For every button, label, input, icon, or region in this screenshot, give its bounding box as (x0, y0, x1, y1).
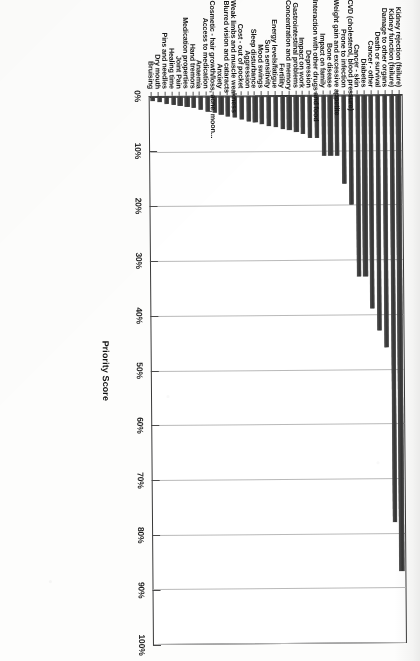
bar (259, 96, 263, 124)
bar (239, 96, 243, 119)
bar (293, 96, 298, 132)
bar (368, 95, 374, 308)
category-label: Bruising (146, 1, 156, 89)
category-tick (302, 91, 303, 95)
bar (362, 95, 368, 276)
category-tick (384, 90, 385, 94)
value-axis-title-label: Priority Score (100, 341, 110, 402)
category-tick (274, 91, 275, 95)
category-tick (363, 90, 364, 94)
value-axis-tick-label: 40% (134, 307, 144, 323)
bar (375, 95, 381, 330)
tick-mark (152, 535, 160, 536)
value-axis-tick-label: 100% (136, 635, 146, 656)
bar (164, 97, 168, 104)
category-tick (185, 92, 186, 96)
value-axis-tick-label: 60% (135, 417, 145, 433)
category-tick (199, 92, 200, 96)
bar (287, 96, 291, 130)
value-axis-tick-label: 30% (133, 252, 143, 268)
category-tick (164, 92, 165, 96)
bar (300, 96, 305, 134)
bar (348, 95, 353, 204)
chart-root: Priority Score 0%10%20%30%40%50%60%70%80… (0, 0, 420, 661)
category-tick (219, 91, 220, 95)
category-axis: Kidney rejection (failure)Kidney functio… (147, 0, 402, 96)
tick-mark (149, 151, 157, 152)
category-tick (398, 90, 399, 94)
bar (355, 95, 361, 276)
bar (280, 96, 284, 129)
value-axis: Priority Score 0%10%20%30%40%50%60%70%80… (0, 96, 152, 646)
category-tick (391, 90, 392, 94)
plot-wrapper (148, 94, 406, 645)
category-tick (357, 90, 358, 94)
bar (219, 96, 223, 114)
category-tick (151, 92, 152, 96)
bar (171, 97, 175, 105)
bar (253, 96, 257, 122)
category-tick (288, 91, 289, 95)
bar (341, 95, 346, 183)
category-tick (295, 91, 296, 95)
tick-mark (151, 480, 159, 481)
category-tick (192, 92, 193, 96)
bar (184, 97, 188, 107)
bar (246, 96, 250, 121)
bar (191, 97, 195, 109)
value-axis-tick-label: 20% (133, 198, 143, 214)
tick-mark (150, 316, 158, 317)
rotated-chart-stage: Priority Score 0%10%20%30%40%50%60%70%80… (0, 0, 420, 661)
bar (328, 96, 333, 156)
value-axis-title: Priority Score (96, 96, 118, 645)
bar (321, 96, 326, 156)
value-axis-tick-label: 90% (136, 582, 146, 598)
category-tick (281, 91, 282, 95)
bar-series (149, 95, 405, 644)
category-tick (329, 91, 330, 95)
tick-mark (150, 370, 158, 371)
value-axis-tick-label: 70% (135, 472, 145, 488)
bar (178, 97, 182, 106)
category-slot: Bruising (147, 0, 155, 96)
bar (266, 96, 270, 126)
value-axis-tick-label: 80% (136, 527, 146, 543)
category-tick (370, 90, 371, 94)
bar (273, 96, 277, 127)
category-tick (322, 91, 323, 95)
value-axis-tick-label: 10% (133, 143, 143, 159)
category-tick (171, 92, 172, 96)
bar (150, 97, 154, 101)
category-tick (254, 91, 255, 95)
category-tick (178, 92, 179, 96)
category-tick (267, 91, 268, 95)
plot-area (148, 94, 406, 645)
bar (157, 97, 161, 103)
category-tick (206, 92, 207, 96)
tick-mark (149, 206, 157, 207)
category-tick (240, 91, 241, 95)
bar (198, 97, 202, 110)
category-tick (308, 91, 309, 95)
category-tick (157, 92, 158, 96)
value-axis-tick-label: 50% (134, 362, 144, 378)
tick-mark (152, 645, 160, 646)
tick-mark (152, 590, 160, 591)
category-tick (377, 90, 378, 94)
bar (382, 95, 388, 347)
tick-mark (149, 261, 157, 262)
tick-mark (148, 96, 156, 97)
value-axis-tick-label: 0% (132, 90, 142, 102)
category-tick (343, 90, 344, 94)
category-tick (260, 91, 261, 95)
tick-mark (151, 425, 159, 426)
category-tick (247, 91, 248, 95)
